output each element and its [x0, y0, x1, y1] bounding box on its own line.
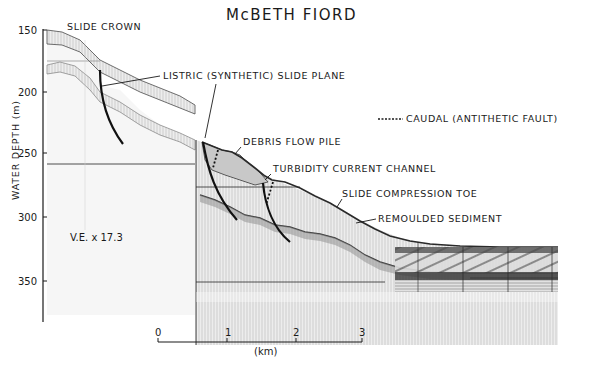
y-tick-150: 150	[18, 25, 37, 36]
scale-unit: (km)	[254, 346, 277, 357]
y-tick-200: 200	[18, 87, 37, 98]
label-debris-flow-pile: DEBRIS FLOW PILE	[243, 136, 341, 147]
label-slide-crown: SLIDE CROWN	[67, 21, 141, 32]
y-tick-350: 350	[18, 276, 37, 287]
label-listric-slide-plane: LISTRIC (SYNTHETIC) SLIDE PLANE	[163, 70, 345, 81]
y-axis-label: WATER DEPTH (m)	[10, 100, 21, 200]
scale-tick-0: 0	[155, 327, 161, 338]
label-remoulded-sediment: REMOULDED SEDIMENT	[378, 213, 502, 224]
scale-tick-2: 2	[293, 327, 299, 338]
y-tick-300: 300	[18, 212, 37, 223]
label-turbidity-current-channel: TURBIDITY CURRENT CHANNEL	[272, 163, 436, 174]
seismic-profile-figure: McBETH FIORD 150 200 250 300 350 WATER D…	[0, 0, 598, 366]
figure-title: McBETH FIORD	[226, 6, 357, 24]
label-caudal-legend: CAUDAL (ANTITHETIC FAULT)	[406, 113, 558, 124]
scale-tick-3: 3	[359, 327, 365, 338]
scale-tick-1: 1	[225, 327, 231, 338]
y-axis: 150 200 250 300 350 WATER DEPTH (m)	[10, 25, 47, 322]
label-slide-compression-toe: SLIDE COMPRESSION TOE	[342, 188, 477, 199]
vertical-exaggeration: V.E. x 17.3	[70, 232, 123, 243]
